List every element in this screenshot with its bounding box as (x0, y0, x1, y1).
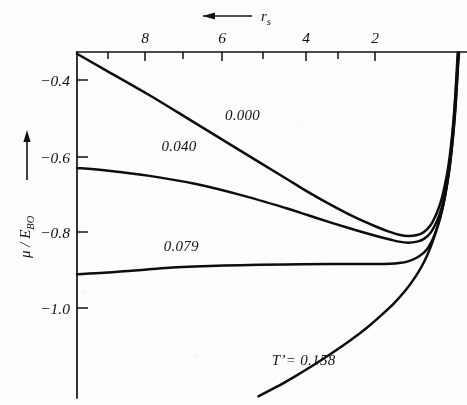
x-axis-label-group: rs (203, 8, 271, 27)
curve-label-0: 0.000 (225, 107, 260, 123)
curve-label-1: 0.040 (161, 138, 196, 154)
figure-container: 8 6 4 2 −0.4 −0.6 −0.8 −1.0 rs (0, 0, 467, 405)
y-ticklabel-1.0: −1.0 (40, 300, 70, 317)
y-axis-label-sub: BO (25, 215, 36, 229)
x-ticklabel-8: 8 (141, 29, 149, 46)
y-axis-arrow-icon (23, 130, 30, 142)
x-ticks-group (108, 52, 375, 61)
y-axis-label-group: μ / EBO (17, 130, 36, 259)
curve-label-2: 0.079 (164, 238, 199, 254)
x-axis-label: rs (261, 8, 271, 27)
curve-labels-group: 0.000 0.040 0.079 T’= 0.158 (161, 107, 335, 369)
axes-group (77, 52, 467, 398)
curves-group (77, 53, 459, 397)
curve-series-3 (258, 53, 458, 397)
x-ticklabel-2: 2 (371, 29, 379, 46)
curve-series-0 (77, 53, 459, 236)
y-axis-label: μ / EBO (17, 215, 36, 259)
x-ticklabel-4: 4 (302, 29, 310, 46)
y-axis-label-text: μ / E (17, 230, 33, 259)
x-ticklabels-group: 8 6 4 2 (141, 29, 379, 46)
chart-canvas: 8 6 4 2 −0.4 −0.6 −0.8 −1.0 rs (0, 0, 467, 405)
y-ticklabel-0.4: −0.4 (40, 72, 70, 89)
curve-series-1 (77, 53, 459, 243)
x-ticklabel-6: 6 (218, 29, 226, 46)
y-ticklabel-0.6: −0.6 (40, 149, 70, 166)
x-axis-label-sub: s (267, 16, 271, 27)
x-axis-arrow-icon (203, 12, 215, 19)
y-ticklabel-0.8: −0.8 (40, 224, 70, 241)
curve-label-3: T’= 0.158 (272, 352, 336, 368)
y-ticklabels-group: −0.4 −0.6 −0.8 −1.0 (40, 72, 70, 317)
